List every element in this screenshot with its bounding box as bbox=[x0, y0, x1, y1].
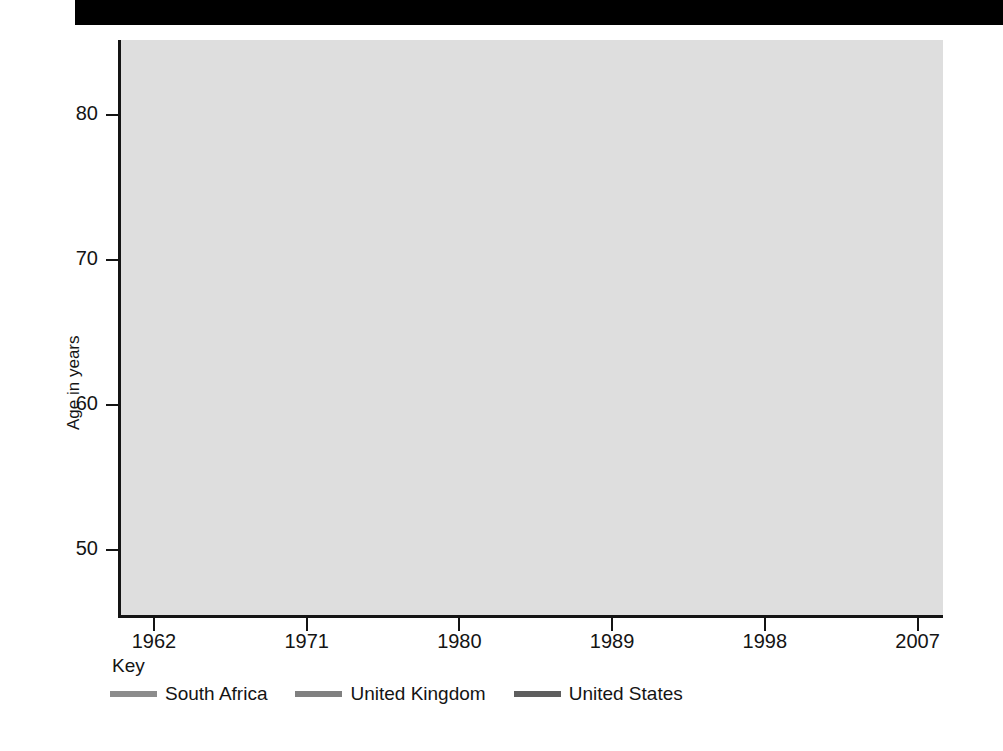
plot-area bbox=[120, 40, 943, 615]
x-tick-label: 1971 bbox=[267, 630, 347, 653]
legend-label: United States bbox=[569, 683, 683, 705]
legend-item: South Africa bbox=[110, 683, 267, 705]
legend-title: Key bbox=[110, 655, 711, 677]
legend-swatch bbox=[110, 691, 157, 697]
y-tick-mark bbox=[106, 549, 119, 551]
y-axis-line bbox=[118, 40, 121, 618]
legend-label: United Kingdom bbox=[350, 683, 485, 705]
y-axis-label: Age in years bbox=[64, 336, 84, 431]
x-tick-label: 1998 bbox=[725, 630, 805, 653]
legend-swatch bbox=[295, 691, 342, 697]
x-tick-label: 1962 bbox=[114, 630, 194, 653]
y-tick-mark bbox=[106, 404, 119, 406]
plot-background bbox=[120, 40, 943, 615]
y-tick-mark bbox=[106, 259, 119, 261]
legend: Key South AfricaUnited KingdomUnited Sta… bbox=[110, 655, 711, 705]
x-tick-label: 1989 bbox=[572, 630, 652, 653]
y-tick-label: 70 bbox=[46, 247, 98, 270]
y-tick-mark bbox=[106, 114, 119, 116]
x-tick-label: 2007 bbox=[878, 630, 958, 653]
legend-swatch bbox=[514, 691, 561, 697]
figure-root: 50607080 196219711980198919982007 Age in… bbox=[0, 0, 1003, 751]
legend-item: United Kingdom bbox=[295, 683, 485, 705]
x-tick-label: 1980 bbox=[419, 630, 499, 653]
y-tick-label: 80 bbox=[46, 102, 98, 125]
top-black-bar bbox=[75, 0, 1003, 25]
x-axis-line bbox=[118, 615, 943, 618]
legend-item: United States bbox=[514, 683, 683, 705]
y-tick-label: 50 bbox=[46, 537, 98, 560]
legend-items: South AfricaUnited KingdomUnited States bbox=[110, 683, 711, 705]
legend-label: South Africa bbox=[165, 683, 267, 705]
